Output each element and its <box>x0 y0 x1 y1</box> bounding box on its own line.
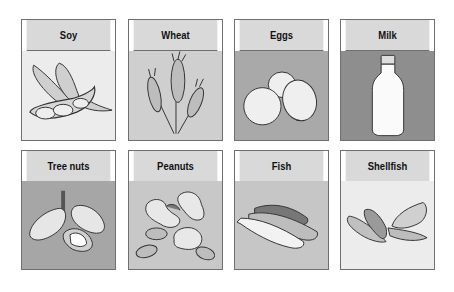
eggs-icon <box>235 51 328 140</box>
allergen-card-shellfish: Shellfish <box>340 150 435 270</box>
allergen-card-peanuts: Peanuts <box>128 150 223 270</box>
soybean-pod-icon <box>22 51 115 140</box>
allergen-card-milk: Milk <box>340 19 435 141</box>
card-label: Soy <box>27 20 111 51</box>
allergen-card-tree-nuts: Tree nuts <box>21 150 116 270</box>
allergen-card-fish: Fish <box>234 150 329 270</box>
card-label: Milk <box>346 20 430 51</box>
wheat-icon <box>129 51 222 140</box>
card-label: Eggs <box>240 20 324 51</box>
allergen-card-wheat: Wheat <box>128 19 223 141</box>
allergen-card-eggs: Eggs <box>234 19 329 141</box>
fish-icon <box>235 181 328 269</box>
card-label: Tree nuts <box>27 151 111 182</box>
milk-bottle-icon <box>341 51 434 140</box>
peanuts-icon <box>129 181 222 269</box>
tree-nuts-icon <box>22 181 115 269</box>
allergen-card-soy: Soy <box>21 19 116 141</box>
shellfish-icon <box>341 181 434 269</box>
card-label: Peanuts <box>134 151 218 182</box>
card-label: Fish <box>240 151 324 182</box>
card-label: Shellfish <box>346 151 430 182</box>
card-label: Wheat <box>134 20 218 51</box>
